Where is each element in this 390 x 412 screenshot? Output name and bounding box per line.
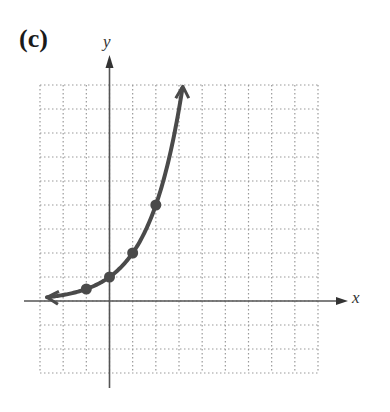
data-points — [81, 200, 161, 295]
data-point — [104, 272, 115, 283]
curve — [47, 86, 189, 304]
exponential-graph — [0, 0, 390, 412]
axes — [24, 55, 348, 388]
data-point — [150, 200, 161, 211]
x-axis-arrow-icon — [336, 297, 348, 305]
y-axis-arrow-icon — [106, 55, 114, 68]
grid — [40, 85, 318, 373]
curve-path — [47, 88, 183, 297]
data-point — [127, 248, 138, 259]
data-point — [81, 284, 92, 295]
